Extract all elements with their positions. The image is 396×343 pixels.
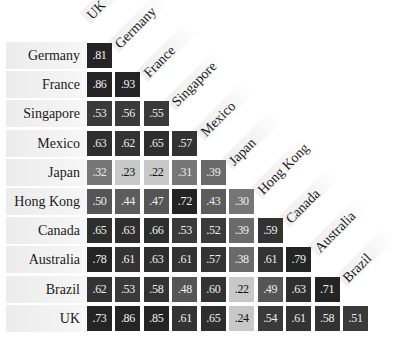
row-label: Japan: [8, 159, 80, 186]
heatmap-cell: .24: [229, 306, 254, 331]
row-label: Mexico: [8, 130, 80, 157]
heatmap-cell: .52: [201, 218, 226, 243]
heatmap-cell: .48: [172, 277, 197, 302]
heatmap-cell: .62: [87, 277, 112, 302]
heatmap-cell: .63: [87, 131, 112, 156]
heatmap-cell: .71: [315, 277, 340, 302]
heatmap-cell: .72: [172, 189, 197, 214]
row-label: Australia: [8, 246, 80, 273]
heatmap-cell: .61: [172, 306, 197, 331]
heatmap-cell: .39: [229, 218, 254, 243]
heatmap-cell: .61: [258, 247, 283, 272]
row-label: Brazil: [8, 276, 80, 303]
heatmap-cell: .50: [87, 189, 112, 214]
heatmap-cell: .47: [144, 189, 169, 214]
heatmap-cell: .86: [87, 72, 112, 97]
column-label: Germany: [112, 4, 160, 52]
heatmap-cell: .65: [144, 131, 169, 156]
heatmap-cell: .58: [144, 277, 169, 302]
heatmap-cell: .61: [172, 247, 197, 272]
heatmap-cell: .57: [201, 247, 226, 272]
heatmap-cell: .53: [115, 277, 140, 302]
column-label: Australia: [311, 209, 359, 257]
heatmap-cell: .32: [87, 160, 112, 185]
heatmap-cell: .56: [115, 101, 140, 126]
heatmap-cell: .51: [343, 306, 368, 331]
heatmap-cell: .63: [286, 277, 311, 302]
heatmap-cell: .59: [258, 218, 283, 243]
heatmap-cell: .39: [201, 160, 226, 185]
heatmap-cell: .54: [258, 306, 283, 331]
row-label: Germany: [8, 42, 80, 69]
heatmap-cell: .43: [201, 189, 226, 214]
row-label: France: [8, 71, 80, 98]
row-label: Singapore: [8, 100, 80, 127]
heatmap-cell: .49: [258, 277, 283, 302]
heatmap-cell: .65: [87, 218, 112, 243]
heatmap-cell: .22: [144, 160, 169, 185]
heatmap-cell: .63: [144, 247, 169, 272]
heatmap-cell: .93: [115, 72, 140, 97]
heatmap-cell: .55: [144, 101, 169, 126]
heatmap-cell: .81: [87, 43, 112, 68]
heatmap-cell: .23: [115, 160, 140, 185]
heatmap-cell: .60: [201, 277, 226, 302]
heatmap-cell: .62: [115, 131, 140, 156]
heatmap-cell: .44: [115, 189, 140, 214]
heatmap-cell: .73: [87, 306, 112, 331]
heatmap-cell: .78: [87, 247, 112, 272]
heatmap-cell: .85: [144, 306, 169, 331]
heatmap-cell: .38: [229, 247, 254, 272]
row-label: Canada: [8, 217, 80, 244]
heatmap-cell: .61: [286, 306, 311, 331]
heatmap-cell: .86: [115, 306, 140, 331]
heatmap-cell: .53: [172, 218, 197, 243]
row-label: Hong Kong: [8, 188, 80, 215]
column-label: Singapore: [169, 59, 220, 110]
heatmap-cell: .22: [229, 277, 254, 302]
heatmap-cell: .58: [315, 306, 340, 331]
heatmap-cell: .61: [115, 247, 140, 272]
column-label: Hong Kong: [254, 140, 312, 198]
row-label: UK: [8, 305, 80, 332]
heatmap-cell: .57: [172, 131, 197, 156]
heatmap-cell: .65: [201, 306, 226, 331]
heatmap-cell: .63: [115, 218, 140, 243]
heatmap-cell: .66: [144, 218, 169, 243]
heatmap-cell: .79: [286, 247, 311, 272]
heatmap-cell: .31: [172, 160, 197, 185]
heatmap-cell: .53: [87, 101, 112, 126]
heatmap-cell: .30: [229, 189, 254, 214]
correlation-heatmap: GermanyFranceSingaporeMexicoJapanHong Ko…: [0, 0, 396, 343]
